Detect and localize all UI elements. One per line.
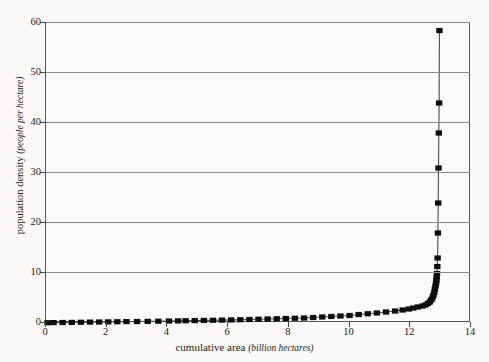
data-point-marker xyxy=(310,315,316,320)
x-axis-unit: (billion hectares) xyxy=(248,343,313,353)
data-point-marker xyxy=(78,320,84,325)
data-point-marker xyxy=(192,318,198,323)
data-point-marker xyxy=(155,319,161,324)
data-point-marker xyxy=(114,319,120,324)
x-axis-tick-label: 2 xyxy=(91,326,121,337)
data-point-marker xyxy=(69,320,75,325)
x-axis-tick-label: 12 xyxy=(394,326,424,337)
data-point-marker xyxy=(337,313,343,318)
x-axis-tick-mark xyxy=(288,322,289,327)
data-point-marker xyxy=(365,311,371,316)
y-axis-title-text: population density xyxy=(14,156,25,234)
data-point-marker xyxy=(346,313,352,318)
x-axis-tick-label: 14 xyxy=(455,326,485,337)
data-point-marker xyxy=(319,314,325,319)
data-point-marker xyxy=(237,317,243,322)
y-axis-tick-label: 60 xyxy=(1,17,41,27)
chart-figure: 0102030405060 02468101214 population den… xyxy=(0,0,489,362)
data-point-marker xyxy=(228,317,234,322)
data-point-marker xyxy=(50,320,56,325)
y-axis-tick-mark xyxy=(40,72,46,73)
y-axis-tick-mark xyxy=(40,272,46,273)
data-point-marker xyxy=(246,317,252,322)
data-point-marker xyxy=(60,320,66,325)
data-point-marker xyxy=(87,320,93,325)
data-point-marker xyxy=(219,318,225,323)
y-axis-tick-mark xyxy=(40,172,46,173)
gridline xyxy=(45,222,470,223)
data-point-marker xyxy=(435,165,441,170)
data-point-marker xyxy=(436,28,442,33)
x-axis-tick-mark xyxy=(45,322,46,327)
data-point-marker xyxy=(436,130,442,135)
data-point-marker xyxy=(123,319,129,324)
x-axis-tick-label: 8 xyxy=(273,326,303,337)
x-axis-tick-label: 10 xyxy=(334,326,364,337)
data-series-layer xyxy=(46,23,471,323)
data-point-marker xyxy=(274,316,280,321)
data-point-marker xyxy=(145,319,151,324)
series-line xyxy=(48,31,440,323)
data-point-marker xyxy=(435,200,441,205)
data-point-marker xyxy=(292,316,298,321)
data-point-marker xyxy=(96,319,102,324)
gridline xyxy=(45,272,470,273)
data-point-marker xyxy=(374,310,380,315)
data-point-marker xyxy=(400,307,406,312)
data-point-marker xyxy=(255,317,261,322)
data-point-marker xyxy=(434,264,440,269)
x-axis-tick-mark xyxy=(166,322,167,327)
data-point-marker xyxy=(435,230,441,235)
y-axis-tick-mark xyxy=(40,22,46,23)
x-axis-title-text: cumulative area xyxy=(175,341,245,353)
x-axis-tick-mark xyxy=(349,322,350,327)
data-point-marker xyxy=(383,309,389,314)
x-axis-tick-mark xyxy=(106,322,107,327)
data-point-marker xyxy=(264,316,270,321)
gridline xyxy=(45,172,470,173)
gridline xyxy=(45,22,470,23)
data-point-marker xyxy=(301,315,307,320)
y-axis-tick-mark xyxy=(40,122,46,123)
x-axis-tick-mark xyxy=(227,322,228,327)
data-point-marker xyxy=(201,318,207,323)
y-axis-unit: (people per hectare) xyxy=(15,77,25,154)
data-point-marker xyxy=(283,316,289,321)
gridline xyxy=(45,72,470,73)
y-axis-tick-mark xyxy=(40,222,46,223)
data-point-marker xyxy=(328,314,334,319)
data-point-marker xyxy=(434,255,440,260)
data-point-marker xyxy=(182,318,188,323)
x-axis-tick-mark xyxy=(409,322,410,327)
data-point-marker xyxy=(355,312,361,317)
data-point-marker xyxy=(436,100,442,105)
data-point-marker xyxy=(210,318,216,323)
data-point-marker xyxy=(175,318,181,323)
data-point-marker xyxy=(134,319,140,324)
x-axis-tick-label: 6 xyxy=(212,326,242,337)
y-axis-title: population density (people per hectare) xyxy=(14,41,25,271)
gridline xyxy=(45,122,470,123)
x-axis-tick-label: 0 xyxy=(30,326,60,337)
x-axis-title: cumulative area (billion hectares) xyxy=(0,341,489,353)
data-point-marker xyxy=(392,308,398,313)
x-axis-tick-mark xyxy=(470,322,471,327)
x-axis-tick-label: 4 xyxy=(151,326,181,337)
